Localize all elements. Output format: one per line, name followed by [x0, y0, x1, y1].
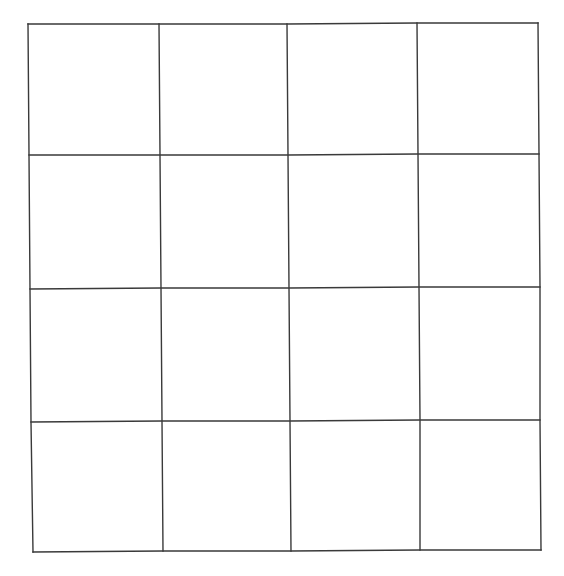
grid-cell-r1-c1 [28, 24, 160, 155]
grid-cell-r2-c3 [288, 154, 419, 288]
grid-cell-r2-c4 [418, 154, 540, 287]
grid-cell-r4-c3 [290, 420, 420, 551]
grid-cell-r3-c2 [161, 288, 290, 421]
grid-cell-r4-c2 [162, 421, 291, 551]
grid-cell-r4-c4 [420, 420, 541, 550]
grid-cell-r1-c4 [417, 23, 539, 154]
grid-cell-r3-c3 [289, 287, 420, 421]
grid-cell-r1-c2 [159, 24, 288, 155]
grid-cell-r2-c1 [29, 155, 161, 289]
grid-cell-r3-c4 [419, 287, 540, 420]
grid-cell-r3-c1 [30, 288, 162, 422]
grid-cell-r2-c2 [160, 155, 289, 288]
grid-cell-r1-c3 [287, 23, 418, 155]
grid-diagram [0, 0, 564, 576]
grid-cell-r4-c1 [31, 421, 163, 552]
